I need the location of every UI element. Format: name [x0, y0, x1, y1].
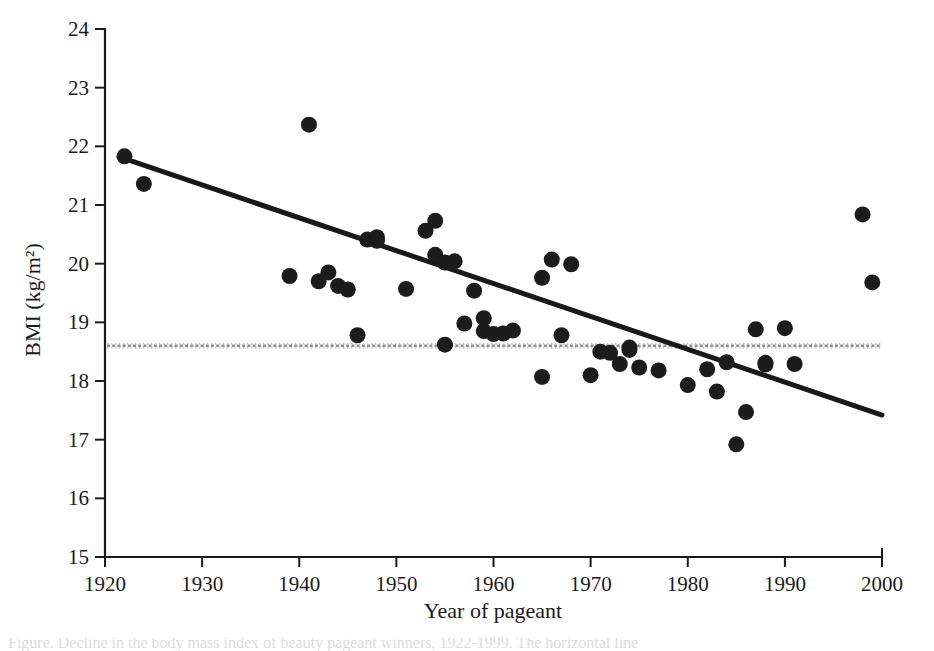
- data-point: [709, 384, 725, 400]
- y-tick-label: 19: [68, 310, 89, 334]
- y-tick-label: 22: [68, 134, 89, 158]
- data-point: [369, 233, 385, 249]
- y-tick-label: 21: [68, 193, 89, 217]
- x-tick-label: 1940: [278, 572, 320, 596]
- data-point: [505, 323, 521, 339]
- data-point: [340, 281, 356, 297]
- data-point: [466, 283, 482, 299]
- y-tick-label: 20: [68, 252, 89, 276]
- data-point: [855, 206, 871, 222]
- data-point: [777, 320, 793, 336]
- data-point: [748, 321, 764, 337]
- data-point: [612, 356, 628, 372]
- y-tick-label: 16: [68, 486, 89, 510]
- data-point: [350, 327, 366, 343]
- figure-caption: Figure. Decline in the body mass index o…: [0, 638, 934, 651]
- data-point: [738, 404, 754, 420]
- data-point: [699, 361, 715, 377]
- data-point: [651, 362, 667, 378]
- data-point: [864, 274, 880, 290]
- data-point: [282, 268, 298, 284]
- data-point: [456, 316, 472, 332]
- data-point: [320, 264, 336, 280]
- figure-caption-text: Figure. Decline in the body mass index o…: [8, 638, 934, 651]
- data-point: [563, 256, 579, 272]
- data-point: [301, 117, 317, 133]
- x-tick-label: 1930: [181, 572, 223, 596]
- data-point: [447, 253, 463, 269]
- bmi-scatter-chart: 1516171819202122232419201930194019501960…: [0, 0, 934, 651]
- data-point: [680, 377, 696, 393]
- data-point: [757, 355, 773, 371]
- data-point: [534, 369, 550, 385]
- x-axis-title: Year of pageant: [424, 598, 562, 623]
- x-tick-label: 1920: [84, 572, 126, 596]
- data-point: [621, 340, 637, 356]
- data-point: [544, 252, 560, 268]
- y-tick-label: 17: [68, 428, 89, 452]
- y-axis-title: BMI (kg/m²): [20, 243, 45, 357]
- data-point: [427, 213, 443, 229]
- y-tick-label: 23: [68, 76, 89, 100]
- data-point: [728, 436, 744, 452]
- data-point: [136, 176, 152, 192]
- y-tick-label: 18: [68, 369, 89, 393]
- y-tick-label: 15: [68, 545, 89, 569]
- figure-container: 1516171819202122232419201930194019501960…: [0, 0, 934, 651]
- data-point: [534, 270, 550, 286]
- x-tick-label: 2000: [861, 572, 903, 596]
- data-point: [437, 337, 453, 353]
- x-tick-label: 1970: [570, 572, 612, 596]
- data-point: [787, 356, 803, 372]
- data-point: [116, 148, 132, 164]
- data-point: [398, 281, 414, 297]
- data-point: [553, 327, 569, 343]
- x-tick-label: 1950: [375, 572, 417, 596]
- x-tick-label: 1980: [667, 572, 709, 596]
- data-point: [719, 354, 735, 370]
- y-tick-label: 24: [68, 17, 90, 41]
- x-tick-label: 1990: [764, 572, 806, 596]
- x-tick-label: 1960: [473, 572, 515, 596]
- data-point: [583, 367, 599, 383]
- data-point: [631, 360, 647, 376]
